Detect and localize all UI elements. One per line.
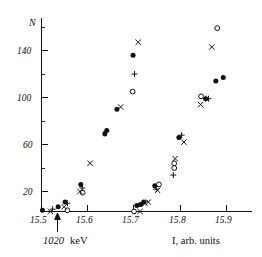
y-tick-label-100: 100 xyxy=(17,93,32,103)
y-tick-label-140: 140 xyxy=(17,46,32,56)
x-tick-label-15-7: 15.7 xyxy=(122,215,140,225)
marker-plus xyxy=(170,172,176,178)
marker-cross xyxy=(87,161,92,166)
x-tick-label-15-5: 15.5 xyxy=(30,215,47,225)
marker-filled-circle xyxy=(213,79,218,84)
marker-filled-circle xyxy=(56,204,61,209)
marker-cross xyxy=(135,40,140,45)
scatter-plot: N 140 100 60 20 15.5 15.6 15.7 15.8 15.9… xyxy=(0,0,262,257)
marker-cross xyxy=(172,156,177,161)
x-axis-caption: I, arb. units xyxy=(172,235,220,246)
y-axis-title: N xyxy=(28,17,37,28)
marker-open-circle xyxy=(172,166,177,171)
x-tick-label-15-6: 15.6 xyxy=(76,215,93,225)
series-filled-circle xyxy=(40,53,226,213)
series-open-circle xyxy=(65,26,220,214)
marker-open-circle xyxy=(172,161,177,166)
y-tick-label-60: 60 xyxy=(23,140,33,150)
marker-filled-circle xyxy=(131,53,136,58)
threshold-energy-value: 1020 xyxy=(43,235,65,246)
y-axis-ticks xyxy=(42,27,49,192)
x-tick-label-15-9: 15.9 xyxy=(215,215,232,225)
marker-filled-circle xyxy=(221,75,226,80)
data-markers-layer xyxy=(40,26,226,214)
marker-filled-circle xyxy=(176,135,181,140)
y-tick-label-20: 20 xyxy=(23,187,33,197)
y-tick-labels: 140 100 60 20 xyxy=(17,46,33,197)
marker-cross xyxy=(61,204,66,209)
threshold-arrow-icon xyxy=(55,213,61,232)
axes xyxy=(42,18,253,212)
marker-filled-circle xyxy=(63,200,68,205)
marker-plus xyxy=(131,71,137,77)
marker-open-circle xyxy=(157,182,162,187)
marker-cross xyxy=(198,102,203,107)
threshold-energy-unit: keV xyxy=(70,235,88,246)
marker-open-circle xyxy=(199,94,204,99)
figure-container: N 140 100 60 20 15.5 15.6 15.7 15.8 15.9… xyxy=(0,0,262,257)
marker-cross xyxy=(209,44,214,49)
marker-open-circle xyxy=(130,89,135,94)
marker-open-circle xyxy=(215,26,220,31)
series-cross xyxy=(48,40,215,215)
marker-cross xyxy=(118,104,123,109)
marker-filled-circle xyxy=(40,208,45,213)
marker-open-circle xyxy=(132,209,137,214)
marker-cross xyxy=(181,139,186,144)
x-tick-label-15-8: 15.8 xyxy=(169,215,186,225)
